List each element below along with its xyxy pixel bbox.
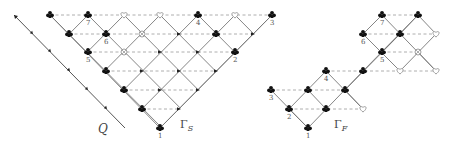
- diagonal-edge: [308, 90, 326, 109]
- node-label: 6: [104, 38, 109, 46]
- diagonal-edge: [289, 109, 308, 128]
- diagonal-edge: [418, 52, 436, 71]
- club-node-icon: [378, 11, 386, 18]
- gamma-s-lattice: 7436521: [46, 11, 276, 140]
- club-node-icon: [46, 11, 54, 18]
- club-node-icon: [414, 11, 422, 18]
- node-label: 1: [158, 132, 162, 140]
- node-label: 2: [287, 113, 291, 121]
- q-label: Q: [98, 122, 108, 136]
- node-label: 5: [86, 56, 90, 64]
- club-node-icon: [267, 86, 275, 93]
- diagonal-edge: [88, 15, 180, 108]
- diagonal-edge: [382, 34, 400, 52]
- node-label: 6: [361, 38, 366, 46]
- node-label: 1: [306, 132, 310, 140]
- diagonal-edge: [345, 90, 363, 109]
- gamma-s-label: ΓS: [180, 118, 194, 133]
- diagonal-edge: [400, 15, 418, 34]
- club-node-icon: [194, 11, 202, 18]
- diagonal-edge: [143, 15, 236, 108]
- node-label: 3: [270, 19, 274, 27]
- club-node-icon: [322, 67, 330, 74]
- node-label: 2: [233, 56, 237, 64]
- node-label: 7: [86, 19, 90, 27]
- open-heart-node-icon: [397, 69, 403, 74]
- node-label: 4: [324, 75, 329, 83]
- open-heart-node-icon: [433, 69, 439, 74]
- club-node-icon: [268, 11, 276, 18]
- node-label: 7: [380, 19, 384, 27]
- gamma-f-label: ΓF: [334, 118, 348, 133]
- diagonal-edge: [418, 15, 436, 34]
- diagram-canvas: 7436521 7654321 Q ΓS ΓF: [0, 0, 452, 149]
- diagonal-edge: [235, 15, 254, 34]
- crossed-node-icon: [139, 31, 145, 37]
- open-heart-node-icon: [360, 107, 366, 112]
- node-label: 5: [380, 56, 384, 64]
- crossed-node-icon: [415, 49, 421, 55]
- gamma-f-lattice: 7654321: [267, 11, 439, 140]
- crossed-node-icon: [121, 49, 127, 55]
- club-node-icon: [102, 67, 110, 74]
- node-label: 3: [269, 94, 273, 102]
- lattice-diagram: 7436521 7654321 Q ΓS ΓF: [0, 0, 452, 149]
- node-label: 4: [196, 19, 201, 27]
- club-node-icon: [84, 11, 92, 18]
